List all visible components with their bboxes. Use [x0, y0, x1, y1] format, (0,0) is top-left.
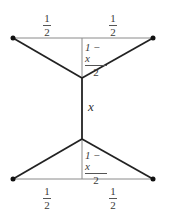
fraction-denominator: 2 — [110, 27, 116, 38]
label-bottom-left-half: 1 2 — [43, 186, 51, 211]
node-dot-bottom-left — [11, 177, 16, 182]
label-top-left-half: 1 2 — [43, 13, 51, 38]
fraction-numerator: 1 − x — [85, 150, 107, 172]
fraction-denominator: 2 — [44, 200, 50, 211]
fraction-numerator: 1 — [110, 186, 116, 197]
label-bottom-right-half: 1 2 — [109, 186, 117, 211]
fraction-numerator: 1 — [44, 13, 50, 24]
node-dot-top-right — [151, 36, 156, 41]
edge-top-left — [13, 38, 82, 78]
fraction-denominator: 2 — [110, 200, 116, 211]
fraction-numerator: 1 − x — [85, 42, 107, 64]
node-dot-bottom-right — [151, 177, 156, 182]
label-middle-x: x — [88, 99, 94, 115]
tree-diagram — [0, 0, 171, 222]
label-top-right-half: 1 2 — [109, 13, 117, 38]
fraction-numerator: 1 — [44, 186, 50, 197]
fraction-denominator: 2 — [93, 67, 99, 78]
node-dot-top-left — [11, 36, 16, 41]
fraction-denominator: 2 — [93, 175, 99, 186]
edge-bottom-left — [13, 139, 82, 179]
label-upper-height: 1 − x 2 — [85, 42, 107, 78]
fraction-numerator: 1 — [110, 13, 116, 24]
fraction-denominator: 2 — [44, 27, 50, 38]
label-lower-height: 1 − x 2 — [85, 150, 107, 186]
